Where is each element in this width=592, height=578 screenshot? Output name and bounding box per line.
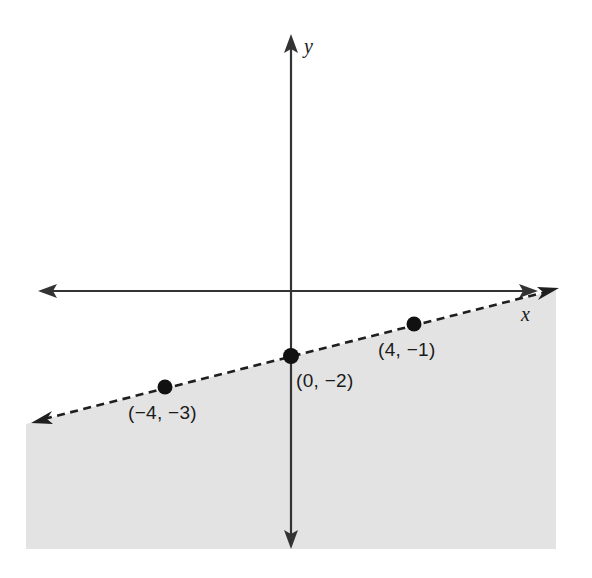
x-axis-group [38, 284, 538, 298]
point-label-0-neg2: (0, −2) [296, 370, 354, 391]
point-label-4-neg1: (4, −1) [378, 339, 436, 360]
coordinate-plane-svg: y x (−4, −3) (0, −2) (4, −1) [0, 0, 592, 578]
y-axis-label: y [302, 35, 313, 58]
x-axis-label: x [520, 303, 530, 325]
data-point-marker[interactable] [158, 380, 173, 395]
point-label-neg4-neg3: (−4, −3) [128, 402, 197, 423]
data-point-marker[interactable] [283, 348, 299, 364]
data-point-marker[interactable] [407, 317, 422, 332]
graph-figure: y x (−4, −3) (0, −2) (4, −1) [0, 0, 592, 578]
